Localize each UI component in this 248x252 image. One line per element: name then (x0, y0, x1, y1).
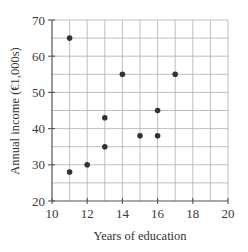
x-tick-label: 20 (222, 206, 235, 221)
x-tick-label: 18 (186, 206, 199, 221)
y-tick-label: 50 (32, 85, 45, 100)
axes (48, 20, 228, 204)
x-tick-label: 10 (46, 206, 59, 221)
data-point (172, 72, 178, 78)
x-tick-label: 14 (116, 206, 130, 221)
y-tick-label: 40 (32, 121, 45, 136)
y-axis-title: Annual income (€1,000s) (8, 47, 22, 174)
data-point (155, 133, 161, 139)
data-point (155, 108, 161, 114)
data-point (137, 133, 143, 139)
data-point (67, 35, 73, 41)
grid-lines (52, 20, 228, 201)
data-point (67, 169, 73, 175)
y-tick-label: 70 (32, 13, 45, 28)
data-point (102, 115, 108, 121)
y-tick-label: 30 (32, 157, 45, 172)
y-tick-label: 20 (32, 194, 45, 209)
y-tick-label: 60 (32, 49, 45, 64)
x-axis-title: Years of education (93, 229, 187, 243)
x-tick-label: 12 (81, 206, 94, 221)
data-point (84, 162, 90, 168)
data-point (102, 144, 108, 150)
data-point (120, 72, 126, 78)
tick-labels: 101214161820203040506070 (32, 13, 235, 222)
x-tick-label: 16 (151, 206, 165, 221)
scatter-chart: 101214161820203040506070 Years of educat… (0, 0, 248, 252)
